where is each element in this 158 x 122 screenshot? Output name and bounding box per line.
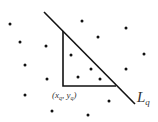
dot bbox=[19, 41, 22, 44]
dot bbox=[46, 78, 49, 81]
dot bbox=[143, 53, 146, 56]
dot bbox=[9, 23, 12, 26]
dot bbox=[90, 68, 93, 71]
diagram: (xq, yq) Lq bbox=[0, 0, 158, 122]
dot bbox=[51, 110, 54, 113]
dot bbox=[99, 78, 102, 81]
dot bbox=[87, 114, 90, 117]
line-label: Lq bbox=[136, 89, 150, 107]
dot bbox=[45, 45, 48, 48]
dot bbox=[24, 64, 27, 67]
dot bbox=[125, 27, 128, 30]
dot bbox=[81, 20, 84, 23]
point-label: (xq, yq) bbox=[52, 90, 77, 101]
dot bbox=[97, 36, 100, 39]
dot bbox=[70, 54, 73, 57]
dot bbox=[77, 76, 80, 79]
dot bbox=[108, 100, 111, 103]
dot bbox=[125, 68, 128, 71]
dot bbox=[24, 94, 27, 97]
dots bbox=[9, 20, 146, 117]
